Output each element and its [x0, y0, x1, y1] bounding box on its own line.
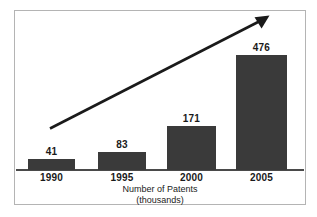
x-tick-label-1990: 1990: [28, 172, 75, 183]
bar-1990: [28, 159, 75, 170]
bar-2005: [236, 55, 287, 170]
chart-figure: 41 1990 83 1995 171 2000 476 2005 Number…: [0, 0, 317, 217]
bar-value-2000: 171: [167, 113, 216, 124]
x-tick-label-2005: 2005: [236, 172, 287, 183]
bar-1995: [98, 152, 146, 170]
x-axis-title-line-2: (thousands): [16, 195, 304, 206]
bar-2000: [167, 126, 216, 170]
x-tick-label-2000: 2000: [167, 172, 216, 183]
bar-value-1995: 83: [98, 139, 146, 150]
x-axis-title-line-1: Number of Patents: [16, 184, 304, 195]
x-axis-title: Number of Patents (thousands): [16, 184, 304, 205]
bar-value-1990: 41: [28, 146, 75, 157]
bar-value-2005: 476: [236, 42, 287, 53]
x-tick-label-1995: 1995: [98, 172, 146, 183]
